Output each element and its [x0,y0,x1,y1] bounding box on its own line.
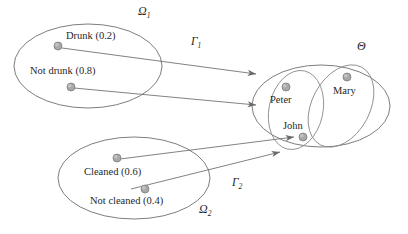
member-label-john: John [283,121,303,132]
connector-not-cleaned-to-frame [131,152,280,189]
element-dot-cleaned [113,154,121,162]
element-dot-not-drunk [67,83,75,91]
diagram-vector-layer [0,0,408,234]
source-one-label: Ω1 [138,5,150,20]
source-two-boundary [58,137,210,219]
subset-peter-john-boundary [261,65,330,154]
element-dot-drunk [54,42,62,50]
element-dot-not-cleaned [141,185,149,193]
subset-john-mary-boundary [295,54,388,159]
member-label-mary: Mary [333,86,356,97]
mapping-gamma-2-label: Γ2 [232,177,242,191]
frame-boundary [252,65,390,147]
diagram-canvas: Ω1 Ω2 Θ Γ1 Γ2 Drunk (0.2) Not drunk (0.8… [0,0,408,234]
element-label-not-drunk: Not drunk (0.8) [30,66,96,77]
connector-cleaned-to-john [120,137,294,159]
element-label-not-cleaned: Not cleaned (0.4) [90,196,163,207]
member-label-peter: Peter [270,95,292,106]
member-dot-mary [343,73,351,81]
element-label-drunk: Drunk (0.2) [66,31,116,42]
mapping-gamma-1-label: Γ1 [191,36,201,50]
connector-not-drunk-to-frame [74,88,256,105]
frame-label: Θ [357,40,366,52]
element-label-cleaned: Cleaned (0.6) [84,167,141,178]
member-dot-peter [282,83,290,91]
member-dot-john [299,133,307,141]
source-two-label: Ω2 [199,203,211,218]
